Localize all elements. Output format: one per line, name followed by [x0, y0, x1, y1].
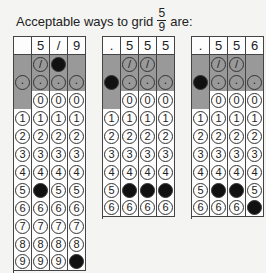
digit-bubble-0[interactable]: 0	[69, 93, 84, 108]
digit-bubble-0[interactable]: 0	[211, 93, 226, 108]
decimal-point-bubble[interactable]: .	[51, 75, 66, 90]
digit-bubble-6[interactable]: 6	[104, 200, 119, 215]
digit-bubble-8[interactable]: 8	[69, 237, 84, 252]
fraction-slash-bubble[interactable]: /	[51, 57, 66, 72]
digit-bubble-4[interactable]: 4	[140, 165, 155, 180]
digit-bubble-3[interactable]: 3	[193, 147, 208, 162]
digit-bubble-2[interactable]: 2	[15, 129, 30, 144]
digit-bubble-6[interactable]: 6	[229, 200, 244, 215]
digit-bubble-1[interactable]: 1	[69, 111, 84, 126]
digit-bubble-2[interactable]: 2	[247, 129, 262, 144]
digit-bubble-4[interactable]: 4	[69, 165, 84, 180]
digit-bubble-2[interactable]: 2	[122, 129, 137, 144]
answer-box[interactable]: .	[103, 36, 121, 55]
digit-bubble-0[interactable]: 0	[51, 93, 66, 108]
answer-box[interactable]: 6	[246, 36, 264, 55]
digit-bubble-0[interactable]: 0	[229, 93, 244, 108]
digit-bubble-2[interactable]: 2	[33, 129, 48, 144]
digit-bubble-5[interactable]: 5	[15, 183, 30, 198]
digit-bubble-3[interactable]: 3	[122, 147, 137, 162]
digit-bubble-3[interactable]: 3	[158, 147, 173, 162]
digit-bubble-6[interactable]: 6	[33, 201, 48, 216]
digit-bubble-4[interactable]: 4	[247, 165, 262, 180]
decimal-point-bubble[interactable]: .	[69, 75, 84, 90]
decimal-point-bubble[interactable]: .	[140, 75, 155, 90]
digit-bubble-2[interactable]: 2	[229, 129, 244, 144]
decimal-point-bubble[interactable]: .	[33, 75, 48, 90]
digit-bubble-5[interactable]: 5	[69, 183, 84, 198]
digit-bubble-4[interactable]: 4	[104, 165, 119, 180]
digit-bubble-6[interactable]: 6	[211, 200, 226, 215]
digit-bubble-5[interactable]: 5	[193, 183, 208, 198]
digit-bubble-5[interactable]: 5	[33, 183, 48, 198]
digit-bubble-5[interactable]: 5	[158, 183, 173, 198]
digit-bubble-7[interactable]: 7	[15, 219, 30, 234]
fraction-slash-bubble[interactable]: /	[33, 57, 48, 72]
digit-bubble-1[interactable]: 1	[140, 111, 155, 126]
digit-bubble-5[interactable]: 5	[51, 183, 66, 198]
answer-box[interactable]: 5	[139, 36, 157, 55]
digit-bubble-3[interactable]: 3	[33, 147, 48, 162]
digit-bubble-2[interactable]: 2	[158, 129, 173, 144]
digit-bubble-6[interactable]: 6	[247, 200, 262, 215]
digit-bubble-2[interactable]: 2	[104, 129, 119, 144]
digit-bubble-4[interactable]: 4	[15, 165, 30, 180]
digit-bubble-1[interactable]: 1	[247, 111, 262, 126]
digit-bubble-4[interactable]: 4	[211, 165, 226, 180]
digit-bubble-1[interactable]: 1	[193, 111, 208, 126]
answer-box[interactable]: 9	[68, 36, 86, 55]
fraction-slash-bubble[interactable]: /	[122, 57, 137, 72]
digit-bubble-5[interactable]: 5	[247, 183, 262, 198]
digit-bubble-0[interactable]: 0	[158, 93, 173, 108]
digit-bubble-0[interactable]: 0	[140, 93, 155, 108]
digit-bubble-4[interactable]: 4	[33, 165, 48, 180]
digit-bubble-5[interactable]: 5	[104, 183, 119, 198]
digit-bubble-5[interactable]: 5	[211, 183, 226, 198]
digit-bubble-3[interactable]: 3	[15, 147, 30, 162]
answer-box[interactable]: .	[192, 36, 210, 55]
digit-bubble-9[interactable]: 9	[15, 254, 30, 269]
digit-bubble-0[interactable]: 0	[33, 93, 48, 108]
digit-bubble-9[interactable]: 9	[51, 254, 66, 269]
decimal-point-bubble[interactable]: .	[15, 75, 30, 90]
digit-bubble-6[interactable]: 6	[69, 201, 84, 216]
digit-bubble-4[interactable]: 4	[229, 165, 244, 180]
digit-bubble-8[interactable]: 8	[33, 237, 48, 252]
digit-bubble-1[interactable]: 1	[229, 111, 244, 126]
fraction-slash-bubble[interactable]: /	[140, 57, 155, 72]
digit-bubble-1[interactable]: 1	[15, 111, 30, 126]
digit-bubble-1[interactable]: 1	[33, 111, 48, 126]
digit-bubble-7[interactable]: 7	[33, 219, 48, 234]
decimal-point-bubble[interactable]: .	[158, 75, 173, 90]
digit-bubble-2[interactable]: 2	[51, 129, 66, 144]
answer-box[interactable]: 5	[157, 36, 175, 55]
digit-bubble-3[interactable]: 3	[51, 147, 66, 162]
decimal-point-bubble[interactable]: .	[104, 75, 119, 90]
digit-bubble-3[interactable]: 3	[140, 147, 155, 162]
digit-bubble-2[interactable]: 2	[140, 129, 155, 144]
digit-bubble-5[interactable]: 5	[140, 183, 155, 198]
digit-bubble-4[interactable]: 4	[51, 165, 66, 180]
digit-bubble-6[interactable]: 6	[15, 201, 30, 216]
digit-bubble-9[interactable]: 9	[33, 254, 48, 269]
digit-bubble-9[interactable]: 9	[69, 254, 84, 269]
decimal-point-bubble[interactable]: .	[193, 75, 208, 90]
answer-box[interactable]: 5	[228, 36, 246, 55]
digit-bubble-0[interactable]: 0	[247, 93, 262, 108]
fraction-slash-bubble[interactable]: /	[211, 57, 226, 72]
digit-bubble-7[interactable]: 7	[51, 219, 66, 234]
answer-box[interactable]: 5	[210, 36, 228, 55]
digit-bubble-5[interactable]: 5	[122, 183, 137, 198]
digit-bubble-6[interactable]: 6	[158, 200, 173, 215]
decimal-point-bubble[interactable]: .	[247, 75, 262, 90]
digit-bubble-6[interactable]: 6	[140, 200, 155, 215]
decimal-point-bubble[interactable]: .	[211, 75, 226, 90]
digit-bubble-3[interactable]: 3	[229, 147, 244, 162]
digit-bubble-1[interactable]: 1	[122, 111, 137, 126]
digit-bubble-6[interactable]: 6	[122, 200, 137, 215]
answer-box[interactable]: /	[50, 36, 68, 55]
digit-bubble-8[interactable]: 8	[51, 237, 66, 252]
digit-bubble-5[interactable]: 5	[229, 183, 244, 198]
digit-bubble-4[interactable]: 4	[158, 165, 173, 180]
digit-bubble-0[interactable]: 0	[122, 93, 137, 108]
